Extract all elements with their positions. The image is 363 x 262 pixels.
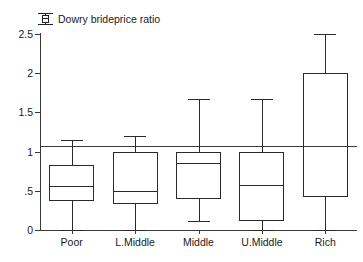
whisker-lower [325, 197, 326, 230]
boxplot-figure: Dowry brideprice ratio 0.511.522.5PoorL.… [0, 0, 363, 262]
boxplot-box-group: Rich [0, 0, 363, 262]
whisker-upper [325, 34, 326, 73]
median-line [303, 73, 348, 74]
box-iqr [303, 73, 348, 197]
x-axis-tick [325, 230, 326, 234]
x-axis-label-rich: Rich [285, 236, 363, 248]
plot-area: 0.511.522.5PoorL.MiddleMiddleU.MiddleRic… [0, 0, 363, 262]
whisker-cap-upper [314, 34, 336, 35]
